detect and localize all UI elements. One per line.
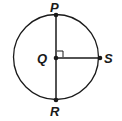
label-R: R [50,104,60,119]
point-R [54,98,59,103]
label-P: P [50,0,59,15]
circle-diagram: P Q S R [0,0,122,121]
label-S: S [104,51,113,66]
label-Q: Q [37,51,47,66]
point-Q [54,56,59,61]
right-angle-marker [57,51,63,57]
point-S [98,56,103,61]
